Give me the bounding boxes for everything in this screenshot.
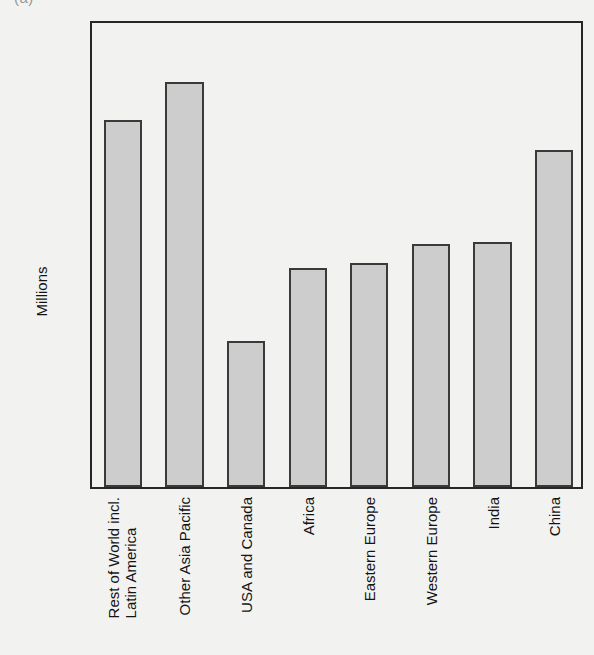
bar (473, 242, 511, 487)
bar (289, 268, 327, 487)
bar (535, 150, 573, 487)
x-axis-label: India (485, 497, 502, 530)
x-axis-label: Eastern Europe (361, 497, 378, 601)
x-axis-label: Other Asia Pacific (176, 497, 193, 615)
bar (165, 82, 203, 487)
x-axis-label-line: Western Europe (423, 497, 440, 605)
x-axis-label: Western Europe (423, 497, 440, 605)
x-axis-label-line: Africa (300, 497, 317, 535)
bar (227, 341, 265, 487)
x-axis-label-line: China (546, 497, 563, 536)
x-axis-label-line: India (485, 497, 502, 530)
x-axis-label: Africa (300, 497, 317, 535)
x-axis-label-line: USA and Canada (238, 497, 255, 613)
bar (104, 120, 142, 487)
x-axis-label-line: Eastern Europe (361, 497, 378, 601)
y-axis-title: Millions (33, 232, 50, 352)
x-axis-label: China (546, 497, 563, 536)
bar-chart: Millions 02004006008001000 Rest of World… (0, 0, 594, 655)
x-axis-label-line: Rest of World incl. (105, 497, 122, 618)
bar (350, 263, 388, 487)
x-axis-label: USA and Canada (238, 497, 255, 613)
x-axis-label-line: Other Asia Pacific (176, 497, 193, 615)
x-axis-label: Rest of World incl.Latin America (105, 497, 139, 618)
bar (412, 244, 450, 487)
x-axis-label-line: Latin America (122, 497, 139, 618)
plot-area (90, 21, 583, 489)
